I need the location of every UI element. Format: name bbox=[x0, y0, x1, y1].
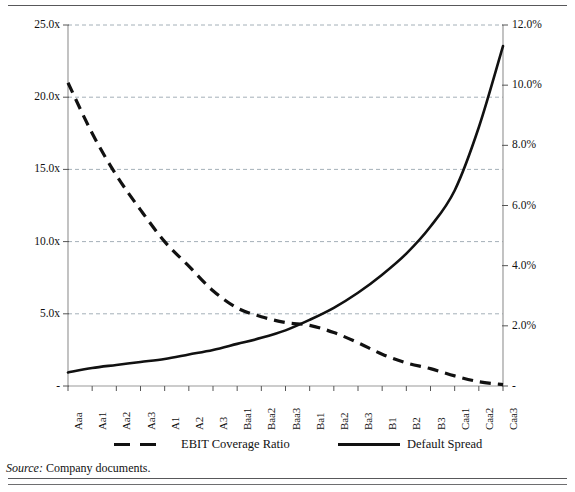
source-note: Source: Company documents. bbox=[6, 461, 151, 476]
left-axis-tick-label: - bbox=[4, 380, 60, 392]
right-axis-tick-label: 8.0% bbox=[512, 139, 572, 151]
gridlines-group bbox=[68, 25, 503, 314]
left-axis-tick-label: 5.0x bbox=[4, 308, 60, 320]
legend-solid-line-icon bbox=[338, 438, 400, 450]
series-line-ebit-coverage-ratio bbox=[68, 83, 503, 385]
x-axis-tick-label: Aa3 bbox=[145, 412, 157, 430]
chart-svg bbox=[0, 0, 575, 430]
x-axis-tick-label: Aaa bbox=[72, 413, 84, 430]
left-axis-tick-label: 10.0x bbox=[4, 236, 60, 248]
left-axis-tick-label: 15.0x bbox=[4, 163, 60, 175]
x-axis-tick-label: A1 bbox=[169, 417, 181, 430]
x-axis-tick-label: A3 bbox=[217, 417, 229, 430]
x-axis-tick-label: Baa3 bbox=[290, 408, 302, 430]
chart-legend: EBIT Coverage Ratio Default Spread bbox=[0, 432, 575, 458]
source-label: Source: bbox=[6, 461, 43, 475]
x-axis-tick-label: B1 bbox=[386, 417, 398, 430]
series-line-default-spread bbox=[68, 46, 503, 372]
axis-lines-group bbox=[68, 25, 503, 386]
axis-ticks-group bbox=[63, 25, 508, 391]
left-axis-tick-label: 20.0x bbox=[4, 91, 60, 103]
x-axis-tick-label: Caa1 bbox=[459, 408, 471, 430]
right-axis-tick-label: - bbox=[512, 380, 572, 392]
x-axis-tick-label: A2 bbox=[193, 417, 205, 430]
x-axis-tick-label: Caa3 bbox=[507, 408, 519, 430]
x-axis-tick-label: Ba3 bbox=[362, 413, 374, 430]
legend-dashed-line-icon bbox=[112, 438, 174, 450]
legend-label-default-spread: Default Spread bbox=[407, 437, 482, 452]
figure-container: -5.0x10.0x15.0x20.0x25.0x -2.0%4.0%6.0%8… bbox=[0, 0, 575, 492]
x-axis-tick-label: Aa1 bbox=[96, 412, 108, 430]
right-axis-tick-label: 6.0% bbox=[512, 200, 572, 212]
source-text: Company documents. bbox=[43, 461, 151, 475]
legend-item-ebit-coverage-ratio: EBIT Coverage Ratio bbox=[112, 434, 290, 454]
x-axis-tick-label: Ba1 bbox=[314, 413, 326, 430]
chart-plot-area: -5.0x10.0x15.0x20.0x25.0x -2.0%4.0%6.0%8… bbox=[0, 0, 575, 430]
x-axis-tick-label: Caa2 bbox=[483, 408, 495, 430]
right-axis-tick-label: 2.0% bbox=[512, 320, 572, 332]
left-axis-tick-label: 25.0x bbox=[4, 19, 60, 31]
x-axis-tick-label: Baa2 bbox=[265, 408, 277, 430]
right-axis-tick-label: 10.0% bbox=[512, 79, 572, 91]
right-axis-tick-label: 12.0% bbox=[512, 19, 572, 31]
legend-item-default-spread: Default Spread bbox=[338, 434, 482, 454]
figure-bottom-rule-outer bbox=[8, 478, 567, 479]
x-axis-tick-label: Ba2 bbox=[338, 413, 350, 430]
x-axis-tick-label: B2 bbox=[410, 417, 422, 430]
x-axis-tick-label: Baa1 bbox=[241, 408, 253, 430]
x-axis-tick-label: B3 bbox=[435, 417, 447, 430]
legend-label-ebit-coverage-ratio: EBIT Coverage Ratio bbox=[181, 437, 290, 452]
right-axis-tick-label: 4.0% bbox=[512, 260, 572, 272]
figure-bottom-rule-inner bbox=[8, 484, 567, 485]
x-axis-tick-label: Aa2 bbox=[120, 412, 132, 430]
